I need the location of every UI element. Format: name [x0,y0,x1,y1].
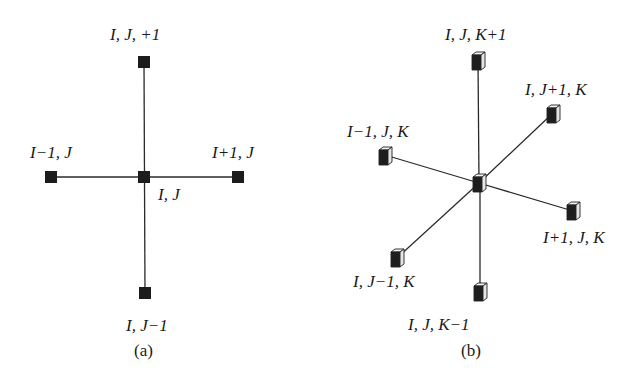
edge-i-plus [479,183,573,211]
label-k-plus: I, J, K+1 [444,25,507,44]
node-j-plus [547,105,560,123]
label-right: I+1, J [211,143,255,162]
label-j-minus: I, J−1, K [352,272,416,291]
node-bottom [139,287,151,299]
edge-j-minus [397,183,479,258]
node-j-minus [391,249,404,267]
label-bottom: I, J−1 [125,316,168,335]
label-i-plus: I+1, J, K [542,228,606,247]
label-i-minus: I−1, J, K [346,122,410,141]
figure-a: I, J, +1 I, J I−1, J I+1, J I, J−1 (a) [29,25,255,360]
node-i-plus [567,202,580,220]
node-left [45,171,57,183]
edge-i-minus [385,155,479,183]
stencil-diagram: I, J, +1 I, J I−1, J I+1, J I, J−1 (a) I… [0,0,638,387]
label-j-plus: I, J+1, K [524,80,588,99]
node-i-minus [379,147,392,165]
label-k-minus: I, J, K−1 [407,315,470,334]
edge-j-plus [479,113,553,183]
caption-b: (b) [461,341,481,360]
node-k-minus [474,283,487,301]
node-top [138,56,150,68]
caption-a: (a) [134,341,153,360]
label-left: I−1, J [29,143,73,162]
edge-k-plus [478,60,479,183]
node-center-b [473,174,486,192]
figure-b: I, J, K+1 I, J+1, K I−1, J, K I+1, J, K … [346,25,606,360]
node-center [138,171,150,183]
label-top: I, J, +1 [109,25,160,44]
node-k-plus [472,52,485,70]
node-right [232,171,244,183]
label-center: I, J [157,185,181,204]
